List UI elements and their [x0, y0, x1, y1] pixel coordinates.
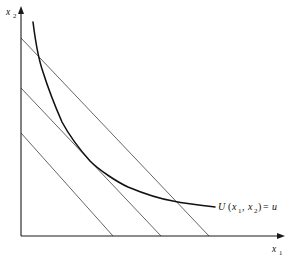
y-axis-arrow-icon: [18, 6, 24, 14]
y-axis-label: x 2: [5, 7, 17, 19]
curve-label-function: U: [218, 201, 226, 212]
curve-label-arg1-base: x: [231, 201, 237, 212]
budget-line-low: [21, 133, 113, 236]
curve-label-comma: ,: [242, 201, 245, 212]
y-axis-label-base: x: [5, 7, 11, 17]
indifference-curve: [33, 22, 215, 207]
y-axis-label-subscript: 2: [13, 12, 17, 19]
x-axis-label-base: x: [271, 244, 277, 254]
x-axis-arrow-icon: [277, 233, 285, 239]
x-axis-label: x 1: [271, 244, 282, 256]
x-axis-label-subscript: 1: [279, 249, 282, 256]
indifference-curve-figure: x 2 x 1 U ( x 1 , x 2 ) = u: [0, 0, 299, 258]
curve-label-equals: =: [263, 201, 269, 212]
budget-line-high: [21, 38, 209, 236]
curve-label-arg2-base: x: [247, 201, 253, 212]
curve-label: U ( x 1 , x 2 ) = u: [218, 201, 277, 215]
figure-canvas: x 2 x 1 U ( x 1 , x 2 ) = u: [0, 0, 299, 258]
curve-label-close-paren: ): [258, 201, 261, 213]
curve-label-value: u: [272, 201, 277, 212]
